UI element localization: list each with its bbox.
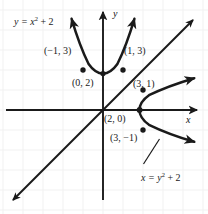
marker-2-0 (137, 107, 143, 113)
leader-line (144, 139, 160, 164)
marker-0-2 (100, 71, 105, 76)
eq-up-head: y = x (14, 16, 35, 27)
point-label-0-2: (0, 2) (72, 78, 94, 88)
y-axis-label: y (113, 8, 117, 19)
eq-right-tail: + 2 (165, 172, 181, 183)
marker-1-3 (120, 67, 125, 72)
eq-right-head: x = y (141, 172, 162, 183)
point-label-3-1: (3, 1) (133, 79, 155, 89)
rightward-parabola-equation-label: x = y2 + 2 (141, 173, 181, 183)
x-axis-label: x (186, 114, 190, 125)
point-label-1-3: (1, 3) (124, 46, 146, 56)
marker-neg1-3 (80, 67, 85, 72)
eq-up-tail: + 2 (38, 16, 54, 27)
upward-parabola-equation-label: y = x2 + 2 (14, 17, 54, 27)
point-label-3-neg1: (3, −1) (110, 133, 137, 143)
marker-3-neg1 (140, 127, 145, 132)
point-label-2-0: (2, 0) (104, 114, 126, 124)
graph-figure: y x y = x2 + 2 x = y2 + 2 (−1, 3) (1, 3)… (0, 0, 208, 214)
point-label-neg1-3: (−1, 3) (44, 46, 71, 56)
